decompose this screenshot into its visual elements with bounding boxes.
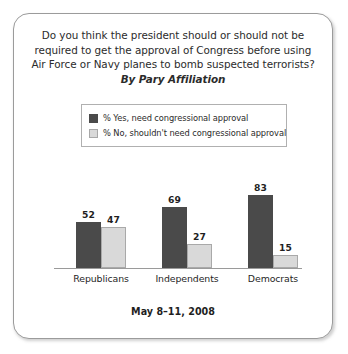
bar-value-republicans-no: 47: [101, 214, 126, 225]
legend-label-yes: % Yes, need congressional approval: [103, 113, 248, 123]
bar-democrats-no: [273, 255, 298, 268]
bar-chart-plot: 52 47 69 27 83 15: [54, 164, 302, 269]
bar-group-democrats: 83 15: [248, 195, 298, 268]
legend-swatch-yes-icon: [89, 114, 98, 123]
bar-value-republicans-yes: 52: [76, 209, 101, 220]
bar-wrap-republicans-yes: 52: [76, 222, 101, 268]
bar-value-independents-yes: 69: [162, 194, 187, 205]
bar-wrap-independents-yes: 69: [162, 207, 187, 268]
bar-republicans-yes: [76, 222, 101, 268]
category-label-independents: Independents: [137, 273, 237, 284]
bar-value-democrats-no: 15: [273, 242, 298, 253]
bar-republicans-no: [101, 227, 126, 268]
legend-item-no: % No, shouldn't need congressional appro…: [89, 126, 279, 140]
page-title-line-3: Air Force or Navy planes to bomb suspect…: [14, 57, 332, 72]
bar-independents-no: [187, 244, 212, 268]
bar-wrap-democrats-yes: 83: [248, 195, 273, 268]
bar-wrap-democrats-no: 15: [273, 255, 298, 268]
bar-value-independents-no: 27: [187, 231, 212, 242]
chart-footer-date: May 8–11, 2008: [14, 306, 332, 317]
page-title-line-2: required to get the approval of Congress…: [14, 43, 332, 58]
bar-wrap-republicans-no: 47: [101, 227, 126, 268]
category-label-republicans: Republicans: [51, 273, 151, 284]
bar-value-democrats-yes: 83: [248, 182, 273, 193]
bar-group-republicans: 52 47: [76, 222, 126, 268]
bar-group-independents: 69 27: [162, 207, 212, 268]
bar-wrap-independents-no: 27: [187, 244, 212, 268]
legend-item-yes: % Yes, need congressional approval: [89, 111, 279, 125]
chart-title-block: Do you think the president should or sho…: [14, 28, 332, 87]
bar-democrats-yes: [248, 195, 273, 268]
legend-label-no: % No, shouldn't need congressional appro…: [103, 128, 286, 138]
page-title-line-1: Do you think the president should or sho…: [14, 28, 332, 43]
chart-legend: % Yes, need congressional approval % No,…: [81, 104, 287, 147]
chart-card: Do you think the president should or sho…: [13, 13, 333, 339]
legend-swatch-no-icon: [89, 129, 98, 138]
chart-subtitle: By Pary Affiliation: [14, 72, 332, 87]
category-label-democrats: Democrats: [223, 273, 323, 284]
bar-independents-yes: [162, 207, 187, 268]
axis-baseline: [54, 268, 302, 269]
